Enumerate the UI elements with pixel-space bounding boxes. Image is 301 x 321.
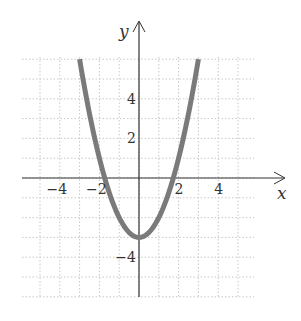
x-tick-label: 2 [175, 181, 184, 197]
y-tick-label: −4 [115, 249, 136, 265]
x-tick-label: −4 [46, 181, 67, 197]
grid [22, 57, 254, 297]
x-tick-label: −2 [86, 181, 107, 197]
y-tick-label: 2 [127, 130, 136, 146]
x-axis-label: x [277, 183, 287, 203]
axes [22, 21, 285, 297]
y-axis-label: y [118, 21, 129, 41]
y-tick-label: 4 [127, 91, 136, 107]
x-tick-labels: −4−224 [46, 181, 223, 197]
x-tick-label: 4 [214, 181, 223, 197]
parabola-graph: −4−224 42−4 x y [0, 0, 301, 321]
